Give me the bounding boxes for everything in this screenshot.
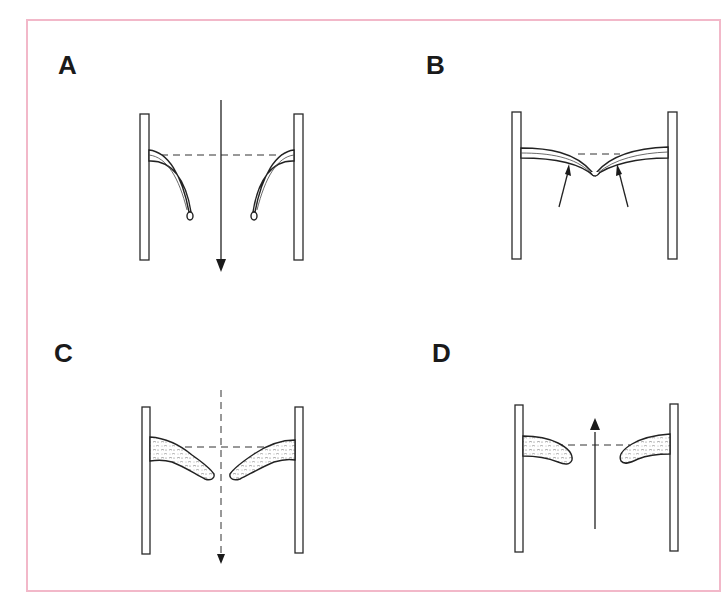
left-plate bbox=[512, 112, 521, 259]
right-mass bbox=[230, 440, 295, 480]
left-plate bbox=[515, 405, 523, 552]
right-membrane bbox=[595, 147, 668, 176]
right-plate bbox=[668, 112, 677, 259]
up-arrow-icon bbox=[590, 418, 600, 430]
diagram-canvas bbox=[0, 0, 728, 613]
left-membrane bbox=[521, 148, 594, 176]
up-arrow-right-icon bbox=[616, 164, 622, 176]
left-mass bbox=[523, 436, 572, 464]
membrane-droplet bbox=[187, 212, 193, 220]
membrane-junction bbox=[590, 172, 600, 176]
panel-b bbox=[512, 112, 677, 259]
right-plate bbox=[295, 407, 303, 553]
panel-d bbox=[515, 404, 678, 552]
left-mass bbox=[150, 437, 214, 480]
right-plate bbox=[294, 114, 303, 260]
up-arrow-left-shaft bbox=[559, 172, 568, 207]
panel-c bbox=[142, 390, 303, 564]
left-plate bbox=[140, 114, 149, 260]
membrane-droplet bbox=[251, 212, 257, 220]
down-arrow-icon bbox=[216, 259, 226, 272]
up-arrow-right-shaft bbox=[619, 172, 628, 207]
right-plate bbox=[670, 404, 678, 551]
right-mass bbox=[620, 434, 670, 463]
left-plate bbox=[142, 407, 150, 554]
panel-a bbox=[140, 100, 303, 272]
down-arrow-icon bbox=[217, 554, 225, 564]
up-arrow-left-icon bbox=[565, 164, 571, 176]
